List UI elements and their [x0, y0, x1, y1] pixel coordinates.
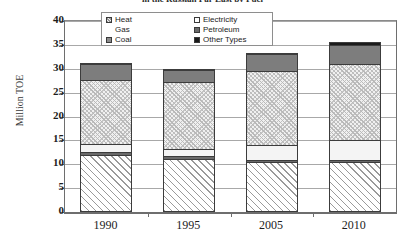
bar-segment-petroleum[interactable] — [329, 160, 381, 162]
bar-segment-electricity[interactable] — [246, 162, 298, 212]
y-tick-label: 20 — [34, 110, 64, 121]
electricity-swatch-icon — [194, 17, 200, 23]
coal-swatch-icon — [106, 37, 112, 43]
chart-title: in the Russian Far East by Fuel — [0, 0, 405, 2]
bar-2005[interactable] — [246, 53, 298, 212]
y-tick-label: 40 — [34, 14, 64, 25]
y-tick-label: 10 — [34, 157, 64, 168]
bar-2010[interactable] — [329, 42, 381, 212]
y-axis-title: Million TOE — [14, 56, 25, 146]
y-tick-label: 35 — [34, 38, 64, 49]
legend-entry-other-types[interactable]: Other Types — [194, 36, 278, 44]
chart-legend: HeatElectricityGasPetroleumCoalOther Typ… — [101, 12, 273, 46]
x-axis-line — [64, 213, 397, 214]
legend-label: Other Types — [203, 36, 246, 44]
gas-swatch-icon — [106, 27, 112, 33]
other-types-swatch-icon — [194, 37, 200, 43]
plot-area — [64, 20, 397, 213]
legend-label: Gas — [115, 26, 130, 34]
bar-segment-petroleum[interactable] — [80, 152, 132, 155]
bar-segment-gas[interactable] — [329, 140, 381, 159]
bar-segment-heat[interactable] — [329, 64, 381, 140]
bar-segment-electricity[interactable] — [163, 159, 215, 212]
bar-segment-gas[interactable] — [163, 149, 215, 156]
legend-label: Electricity — [203, 16, 237, 24]
bar-segment-heat[interactable] — [246, 71, 298, 145]
bar-segment-heat[interactable] — [80, 80, 132, 144]
bar-segment-other-types[interactable] — [163, 69, 215, 71]
x-tick-label-2005: 2005 — [241, 218, 301, 233]
legend-entry-gas[interactable]: Gas — [106, 26, 194, 34]
bar-segment-petroleum[interactable] — [163, 156, 215, 158]
legend-label: Petroleum — [203, 26, 239, 34]
bar-segment-gas[interactable] — [80, 144, 132, 152]
bar-segment-other-types[interactable] — [80, 63, 132, 65]
heat-swatch-icon — [106, 17, 112, 23]
y-tick-label: 15 — [34, 133, 64, 144]
legend-entry-electricity[interactable]: Electricity — [194, 16, 278, 24]
bar-segment-petroleum[interactable] — [246, 160, 298, 162]
x-tick-label-1995: 1995 — [158, 218, 218, 233]
legend-entry-heat[interactable]: Heat — [106, 16, 194, 24]
bar-segment-electricity[interactable] — [80, 155, 132, 212]
x-tick-label-2010: 2010 — [324, 218, 384, 233]
bar-segment-coal[interactable] — [329, 45, 381, 64]
bar-segment-other-types[interactable] — [246, 53, 298, 55]
bar-1990[interactable] — [80, 63, 132, 212]
y-tick-label: 5 — [34, 181, 64, 192]
y-tick-label: 30 — [34, 62, 64, 73]
y-tick-label: 0 — [34, 205, 64, 216]
y-tick-label: 25 — [34, 86, 64, 97]
x-axis-labels: 1990199520052010 — [64, 216, 397, 238]
bar-segment-coal[interactable] — [163, 70, 215, 82]
legend-entry-petroleum[interactable]: Petroleum — [194, 26, 278, 34]
bar-segment-gas[interactable] — [246, 145, 298, 159]
legend-entry-coal[interactable]: Coal — [106, 36, 194, 44]
x-tick-label-1990: 1990 — [75, 218, 135, 233]
bar-segment-heat[interactable] — [163, 82, 215, 149]
petroleum-swatch-icon — [194, 27, 200, 33]
legend-label: Heat — [115, 16, 132, 24]
bar-segment-electricity[interactable] — [329, 162, 381, 212]
legend-label: Coal — [115, 36, 131, 44]
bar-segment-coal[interactable] — [246, 54, 298, 71]
bar-1995[interactable] — [163, 69, 215, 212]
bar-segment-coal[interactable] — [80, 64, 132, 80]
bar-segment-other-types[interactable] — [329, 42, 381, 45]
